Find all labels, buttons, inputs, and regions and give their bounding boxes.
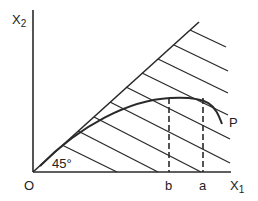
- y-axis-label: X2: [12, 12, 27, 29]
- x-axis-label: X1: [230, 178, 245, 195]
- production-diagram: X2 X1 O 45° P b a: [0, 0, 258, 201]
- angle-label: 45°: [52, 156, 72, 171]
- origin-label: O: [24, 178, 34, 193]
- tick-label-b: b: [165, 178, 172, 193]
- tick-label-a: a: [199, 178, 207, 193]
- curve-label: P: [229, 115, 238, 130]
